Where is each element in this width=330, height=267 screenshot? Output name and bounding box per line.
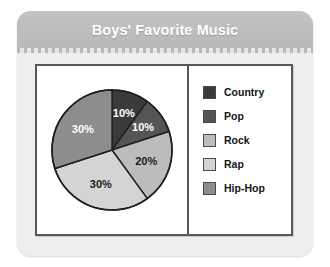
legend-item-label: Rap xyxy=(224,158,244,170)
pie-chart: 10%10%20%30%30% xyxy=(44,82,180,218)
legend-item-label: Hip-Hop xyxy=(224,182,265,194)
legend-item[interactable]: Rap xyxy=(203,152,291,176)
legend-swatch-icon xyxy=(203,158,216,171)
header-divider xyxy=(17,48,313,53)
chart-card: Boys' Favorite Music 10%10%20%30%30% Cou… xyxy=(17,11,313,256)
pie-slice-label: 30% xyxy=(90,178,112,190)
pie-slice-label: 10% xyxy=(132,121,154,133)
pie-chart-area: 10%10%20%30%30% xyxy=(37,66,187,234)
pie-slice-label: 20% xyxy=(135,155,157,167)
legend-swatch-icon xyxy=(203,134,216,147)
legend-item[interactable]: Pop xyxy=(203,104,291,128)
pie-slice-label: 30% xyxy=(72,123,94,135)
legend-item-label: Pop xyxy=(224,110,244,122)
chart-panel: 10%10%20%30%30% CountryPopRockRapHip-Hop xyxy=(35,64,293,236)
chart-legend: CountryPopRockRapHip-Hop xyxy=(189,66,291,234)
legend-item[interactable]: Rock xyxy=(203,128,291,152)
page-title: Boys' Favorite Music xyxy=(92,22,238,38)
legend-swatch-icon xyxy=(203,182,216,195)
pie-slice-label: 10% xyxy=(113,107,135,119)
legend-item-label: Rock xyxy=(224,134,250,146)
legend-item-label: Country xyxy=(224,86,264,98)
legend-item[interactable]: Hip-Hop xyxy=(203,176,291,200)
legend-swatch-icon xyxy=(203,86,216,99)
card-header: Boys' Favorite Music xyxy=(17,11,313,48)
legend-item[interactable]: Country xyxy=(203,80,291,104)
legend-swatch-icon xyxy=(203,110,216,123)
